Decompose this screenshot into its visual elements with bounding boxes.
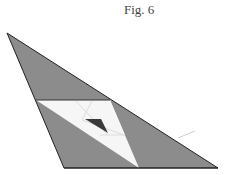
- triangle-figure: [0, 0, 234, 175]
- faint-mark: [178, 131, 195, 138]
